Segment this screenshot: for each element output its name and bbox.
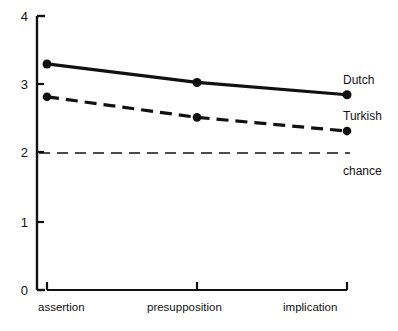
y-axis-label-3: 3 [10,78,28,91]
series-turkish-markers [43,93,352,136]
x-axis-label-implication: implication [283,301,337,313]
series-dutch-markers [43,59,352,99]
series-label-dutch: Dutch [343,74,374,86]
series-label-turkish: Turkish [343,110,382,122]
chart-figure: 4 3 2 1 0 assertion presupposition impli… [0,0,398,331]
x-axis-label-presupposition: presupposition [147,301,222,313]
series-label-chance: chance [343,165,382,177]
y-axis-label-2: 2 [10,146,28,159]
y-axis-label-1: 1 [10,216,28,229]
x-axis-label-assertion: assertion [38,301,85,313]
y-axis-label-4: 4 [10,10,28,23]
chart-plot-area [0,0,398,331]
y-axis-label-0: 0 [10,284,28,297]
x-axis [47,282,347,290]
